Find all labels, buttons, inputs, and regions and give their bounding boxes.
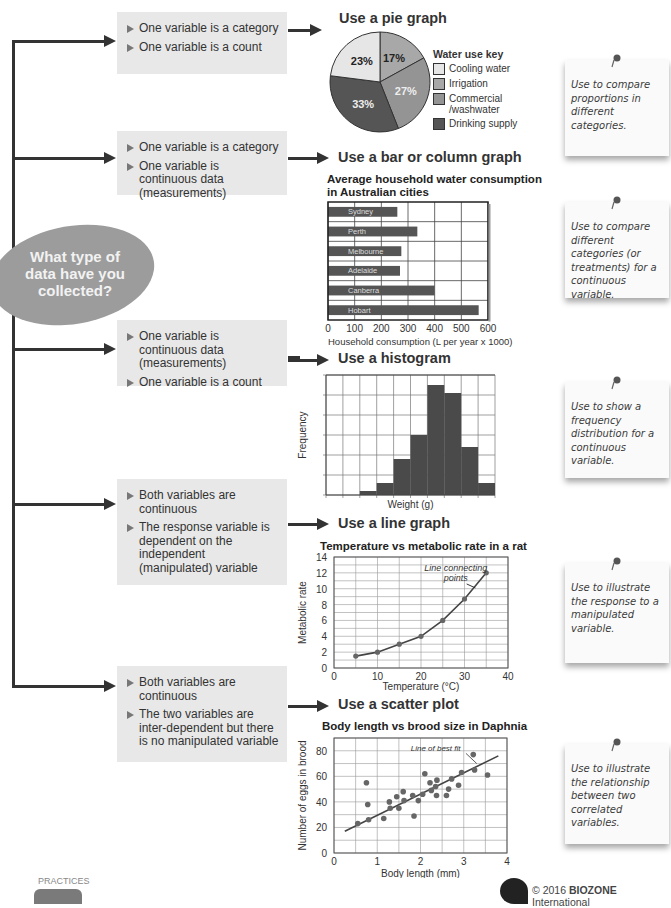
recommendation-histogram: Use a histogram	[338, 350, 451, 366]
svg-text:40: 40	[502, 671, 514, 682]
condition-box-pie: One variable is a category One variable …	[117, 12, 287, 74]
svg-text:2: 2	[418, 856, 424, 867]
svg-text:80: 80	[316, 746, 328, 757]
histogram-bar	[411, 435, 428, 495]
output-arrow-bar	[288, 157, 321, 160]
condition-box-histogram: One variable is continuous data (measure…	[117, 320, 287, 386]
recommendation-bar: Use a bar or column graph	[338, 149, 522, 165]
line-ylabel: Metabolic rate	[297, 581, 308, 644]
legend-swatch	[433, 93, 445, 105]
pushpin-icon	[611, 376, 621, 390]
output-arrow-pie	[288, 29, 314, 32]
data-point	[387, 799, 393, 805]
legend-item: Irrigation	[433, 78, 527, 90]
data-point	[400, 789, 406, 795]
condition-text: One variable is a count	[139, 376, 262, 390]
legend-label: Commercial /washwater	[449, 93, 527, 115]
svg-text:300: 300	[400, 323, 417, 334]
question-line: collected?	[0, 282, 150, 299]
bar-label: Canberra	[348, 286, 380, 295]
brand-name: BIOZONE	[569, 884, 617, 896]
recommendation-scatter: Use a scatter plot	[338, 696, 459, 712]
question-line: What type of	[0, 248, 150, 265]
note-text: Use to illustrate the response to a mani…	[571, 582, 659, 634]
svg-text:60: 60	[316, 771, 328, 782]
data-point	[396, 805, 402, 811]
data-point	[485, 772, 491, 778]
condition-text: The two variables are inter-dependent bu…	[139, 708, 279, 749]
pushpin-icon	[611, 54, 621, 68]
data-point	[433, 784, 439, 790]
svg-text:400: 400	[426, 323, 443, 334]
data-point	[434, 777, 440, 783]
condition-text: One variable is a count	[139, 41, 262, 55]
svg-text:0: 0	[331, 671, 337, 682]
condition-box-scatter: Both variables are continuous The two va…	[117, 666, 287, 762]
copyright-prefix: © 2016	[532, 884, 569, 896]
data-point	[440, 618, 445, 623]
condition-text: One variable is a category	[139, 22, 278, 36]
bar-label: Adelaide	[348, 266, 377, 275]
svg-text:10: 10	[316, 584, 328, 595]
scatter-chart-title: Body length vs brood size in Daphnia	[322, 720, 527, 733]
legend-title: Water use key	[433, 48, 527, 60]
branch-arrow-5	[12, 685, 110, 688]
sticky-note-bar: Use to compare different categories (or …	[565, 202, 669, 298]
histogram-bar	[444, 393, 461, 495]
data-point	[375, 650, 380, 655]
output-arrow-line	[288, 523, 321, 526]
histogram-bar	[461, 447, 478, 495]
condition-box-bar: One variable is a category One variable …	[117, 131, 287, 195]
condition-text: One variable is a category	[139, 141, 278, 155]
bullet-triangle-icon	[127, 492, 134, 500]
condition-text: Both variables are continuous	[139, 489, 279, 516]
svg-text:600: 600	[480, 323, 497, 334]
data-point	[365, 802, 371, 808]
data-point	[420, 791, 426, 797]
question-text: What type of data have you collected?	[0, 248, 150, 299]
data-point	[366, 817, 372, 823]
pushpin-icon	[611, 738, 621, 752]
data-point	[449, 776, 455, 782]
data-point	[387, 805, 393, 811]
svg-text:0: 0	[331, 856, 337, 867]
svg-text:6: 6	[321, 615, 327, 626]
data-point	[353, 654, 358, 659]
practices-tab	[34, 889, 82, 904]
data-point	[397, 642, 402, 647]
recommendation-pie: Use a pie graph	[339, 10, 447, 26]
svg-text:0: 0	[321, 663, 327, 674]
condition-text: Both variables are continuous	[139, 676, 279, 703]
annotation: Line connecting	[424, 563, 487, 573]
legend-swatch	[433, 78, 445, 90]
pushpin-icon	[611, 557, 621, 571]
pie-legend: Water use key Cooling waterIrrigationCom…	[433, 48, 527, 133]
condition-box-line: Both variables are continuous The respon…	[117, 479, 287, 585]
bar-chart-title: Average household water consumption in A…	[327, 173, 547, 199]
bar-label: Hobart	[348, 306, 371, 315]
data-point	[459, 770, 465, 776]
note-text: Use to show a frequency distribution for…	[571, 401, 654, 466]
svg-text:40: 40	[316, 797, 328, 808]
svg-text:2: 2	[321, 647, 327, 658]
pushpin-icon	[611, 196, 621, 210]
data-point	[422, 771, 428, 777]
data-point	[446, 786, 452, 792]
svg-text:3: 3	[461, 856, 467, 867]
histogram-bar	[377, 483, 394, 495]
histogram-bar	[394, 459, 411, 495]
data-point	[418, 634, 423, 639]
data-point	[472, 767, 478, 773]
question-line: data have you	[0, 265, 150, 282]
pie-label: 17%	[383, 52, 405, 64]
legend-item: Drinking supply	[433, 118, 527, 130]
legend-label: Drinking supply	[449, 118, 517, 129]
svg-text:1: 1	[374, 856, 380, 867]
annotation: Line of best fit	[411, 744, 462, 753]
bar-chart: 0100200300400500600SydneyPerthMelbourneA…	[320, 200, 530, 350]
bar-label: Sydney	[348, 207, 373, 216]
pie-slices	[330, 32, 430, 132]
pie-chart: 17%27%33%23%	[328, 30, 432, 134]
scatter-xlabel: Body length (mm)	[381, 868, 460, 878]
bar-label: Perth	[348, 227, 366, 236]
